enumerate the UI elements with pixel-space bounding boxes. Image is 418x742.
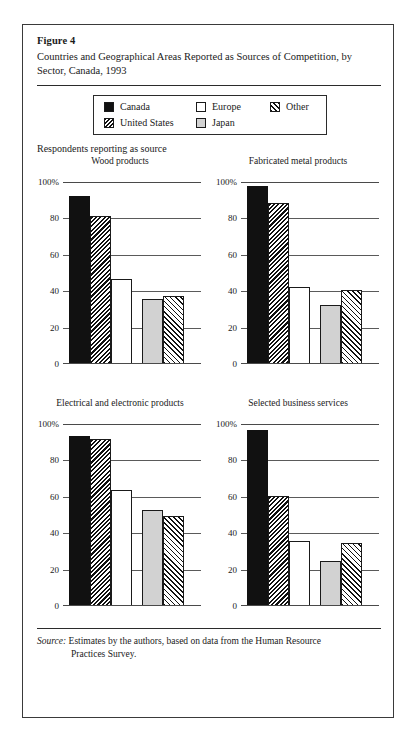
legend-item-canada: Canada	[104, 101, 196, 112]
y-axis-tick-label: 20	[50, 323, 59, 333]
y-axis-tick-label: 20	[50, 565, 59, 575]
y-axis-tick-label: 100%	[216, 419, 237, 429]
title-divider	[37, 85, 381, 86]
gray-swatch-icon	[196, 118, 206, 128]
legend-label-europe: Europe	[212, 101, 241, 112]
y-axis-tick-label: 100%	[38, 177, 59, 187]
y-axis-tick-label: 0	[233, 359, 238, 369]
bar-united-states	[90, 439, 111, 605]
x-axis-line	[241, 605, 379, 606]
y-axis-tick-label: 0	[55, 601, 60, 611]
bar-europe	[111, 490, 132, 605]
source-text-cont: Practices Survey.	[37, 648, 373, 661]
y-axis-tick-label: 100%	[216, 177, 237, 187]
source-prefix: Source:	[37, 636, 66, 646]
source-divider	[37, 628, 381, 629]
figure-frame: Figure 4 Countries and Geographical Area…	[22, 24, 394, 718]
chart-title: Selected business services	[215, 398, 381, 408]
bar-japan	[320, 561, 341, 605]
y-axis-tick-label: 40	[228, 528, 237, 538]
x-axis-line	[241, 363, 379, 364]
x-axis-line	[63, 605, 201, 606]
legend: Canada Europe Other United States	[37, 95, 381, 141]
y-axis-tick-label: 60	[50, 250, 59, 260]
y-axis-tick-label: 60	[228, 492, 237, 502]
bar-canada	[247, 430, 268, 605]
figure-inner: Figure 4 Countries and Geographical Area…	[37, 35, 381, 660]
chart-panel-selected-business-services: Selected business services 100%806040200	[215, 398, 381, 626]
bar-group	[69, 181, 195, 363]
chart-title: Wood products	[37, 156, 203, 166]
bar-united-states	[268, 496, 289, 605]
legend-item-japan: Japan	[196, 117, 235, 128]
plot-area: 100%806040200	[63, 424, 201, 606]
plot-area: 100%806040200	[63, 182, 201, 364]
bar-japan	[142, 510, 163, 605]
bar-other	[341, 543, 362, 605]
legend-row-top: Canada Europe Other	[104, 101, 309, 112]
bar-europe	[289, 287, 310, 363]
chart-panel-wood-products: Wood products 100%806040200	[37, 156, 203, 384]
y-axis-tick-label: 80	[50, 455, 59, 465]
bar-japan	[320, 305, 341, 363]
source-text: Estimates by the authors, based on data …	[69, 636, 321, 646]
y-axis-tick-label: 20	[228, 565, 237, 575]
bar-united-states	[90, 216, 111, 363]
y-axis-tick-label: 60	[228, 250, 237, 260]
bar-united-states	[268, 203, 289, 363]
figure-title: Countries and Geographical Areas Reporte…	[37, 50, 357, 77]
y-axis-tick-label: 0	[233, 601, 238, 611]
charts-grid: Wood products 100%806040200 Fabricated m…	[37, 156, 381, 626]
legend-label-united-states: United States	[120, 117, 174, 128]
source-note: Source: Estimates by the authors, based …	[37, 635, 373, 660]
y-axis-tick-label: 20	[228, 323, 237, 333]
y-axis-tick-label: 80	[50, 213, 59, 223]
bar-group	[69, 423, 195, 605]
figure-label: Figure 4	[37, 35, 381, 46]
chart-panel-electrical-and-electronic-products: Electrical and electronic products 100%8…	[37, 398, 203, 626]
legend-item-other: Other	[270, 101, 309, 112]
legend-item-europe: Europe	[196, 101, 270, 112]
bar-japan	[142, 299, 163, 363]
light-diagonal-hatch-swatch-icon	[270, 102, 280, 112]
y-axis-tick-label: 40	[50, 286, 59, 296]
y-axis-tick-label: 40	[228, 286, 237, 296]
white-swatch-icon	[196, 102, 206, 112]
y-axis-tick-label: 80	[228, 455, 237, 465]
bar-canada	[247, 186, 268, 363]
bar-group	[247, 423, 373, 605]
bar-canada	[69, 196, 90, 363]
y-axis-tick-label: 0	[55, 359, 60, 369]
y-axis-tick-label: 60	[50, 492, 59, 502]
y-axis-tick-label: 40	[50, 528, 59, 538]
dense-diagonal-hatch-swatch-icon	[104, 118, 114, 128]
bar-canada	[69, 436, 90, 605]
chart-panel-fabricated-metal-products: Fabricated metal products 100%806040200	[215, 156, 381, 384]
y-axis-tick-label: 100%	[38, 419, 59, 429]
legend-item-united-states: United States	[104, 117, 196, 128]
chart-title: Electrical and electronic products	[37, 398, 203, 408]
bar-other	[163, 516, 184, 605]
bar-europe	[111, 279, 132, 363]
x-axis-line	[63, 363, 201, 364]
chart-title: Fabricated metal products	[215, 156, 381, 166]
bar-group	[247, 181, 373, 363]
bar-europe	[289, 541, 310, 605]
legend-row-bottom: United States Japan	[104, 117, 235, 128]
legend-label-canada: Canada	[120, 101, 150, 112]
legend-box: Canada Europe Other United States	[93, 95, 327, 135]
plot-area: 100%806040200	[241, 424, 379, 606]
legend-label-japan: Japan	[212, 117, 235, 128]
bar-other	[163, 296, 184, 363]
y-axis-tick-label: 80	[228, 213, 237, 223]
section-label: Respondents reporting as source	[37, 143, 381, 154]
plot-area: 100%806040200	[241, 182, 379, 364]
bar-other	[341, 290, 362, 363]
legend-label-other: Other	[286, 101, 309, 112]
solid-black-swatch-icon	[104, 102, 114, 112]
